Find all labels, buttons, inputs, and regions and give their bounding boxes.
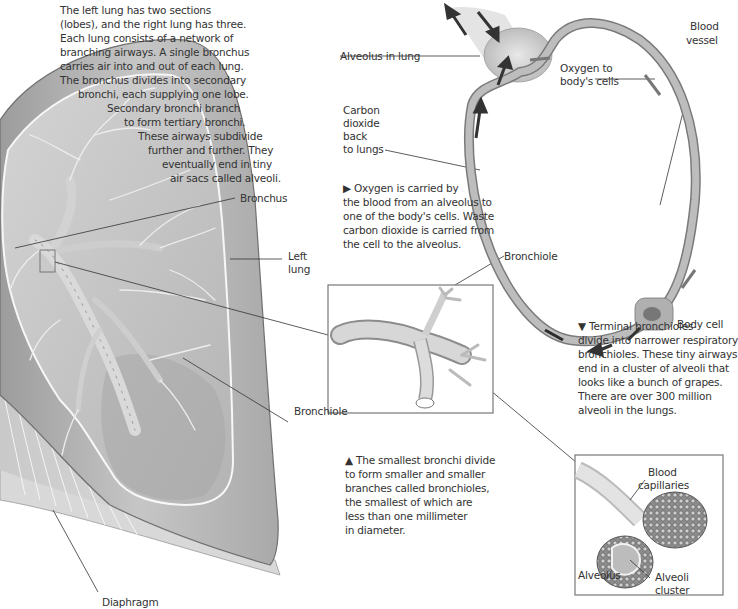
label-left-lung-2: lung: [288, 263, 310, 276]
label-bronchiole-lung: Bronchiole: [294, 405, 348, 418]
label-co2-4: to lungs: [343, 143, 384, 156]
caption-line: one of the body's cells. Waste: [343, 210, 494, 223]
intro-line: to form tertiary bronchi.: [124, 116, 245, 129]
label-co2-2: dioxide: [343, 117, 380, 130]
caption-line: to form smaller and smaller: [345, 468, 485, 481]
intro-line: branching airways. A single bronchus: [60, 46, 249, 59]
intro-line: air sacs called alveoli.: [170, 172, 281, 185]
intro-line: Each lung consists of a network of: [60, 32, 233, 45]
label-blood-capillaries-2: capillaries: [638, 479, 689, 492]
caption-line: alveoli in the lungs.: [578, 404, 677, 417]
label-left-lung-1: Left: [288, 250, 307, 263]
intro-line: The bronchus divides into secondary: [60, 74, 246, 87]
intro-line: eventually end in tiny: [162, 158, 272, 171]
intro-line: Secondary bronchi branch: [107, 102, 240, 115]
label-diaphragm: Diaphragm: [102, 596, 159, 609]
caption-line: ▲ The smallest bronchi divide: [345, 454, 495, 467]
label-oxygen-2: body's cells: [560, 75, 619, 88]
label-blood-capillaries-1: Blood: [648, 466, 677, 479]
label-bronchiole-inset: Bronchiole: [504, 250, 558, 263]
label-alveolus-in-lung: Alveolus in lung: [340, 50, 420, 63]
caption-line: ▶ Oxygen is carried by: [343, 182, 458, 195]
intro-line: (lobes), and the right lung has three.: [60, 18, 246, 31]
caption-line: the cell to the alveolus.: [343, 238, 461, 251]
caption-line: the blood from an alveolus to: [343, 196, 492, 209]
caption-line: the smallest of which are: [345, 496, 472, 509]
caption-line: looks like a bunch of grapes.: [578, 376, 723, 389]
caption-line: carbon dioxide is carried from: [343, 224, 494, 237]
label-co2-3: back: [343, 130, 367, 143]
caption-line: There are over 300 million: [578, 390, 712, 403]
label-blood-vessel-2: vessel: [686, 34, 718, 47]
label-bronchus: Bronchus: [240, 192, 287, 205]
intro-line: bronchi, each supplying one lobe.: [78, 88, 249, 101]
intro-line: carries air into and out of each lung.: [60, 60, 244, 73]
label-oxygen-1: Oxygen to: [560, 62, 613, 75]
caption-line: divide into narrower respiratory: [578, 334, 738, 347]
label-alveoli-cluster-2: cluster: [655, 584, 689, 597]
label-alveoli-cluster-1: Alveoli: [655, 571, 689, 584]
label-blood-vessel-1: Blood: [690, 20, 719, 33]
caption-line: end in a cluster of alveoli that: [578, 362, 729, 375]
caption-line: less than one millimeter: [345, 510, 467, 523]
caption-line: ▼ Terminal bronchioles: [578, 320, 693, 333]
intro-line: further and further. They: [148, 144, 273, 157]
label-alveolus: Alveolus: [578, 569, 621, 582]
label-co2-1: Carbon: [343, 104, 380, 117]
bronchiole-inset: [328, 285, 493, 413]
caption-line: in diameter.: [345, 524, 405, 537]
intro-line: These airways subdivide: [138, 130, 263, 143]
intro-line: The left lung has two sections: [60, 4, 211, 17]
caption-line: branches called bronchioles,: [345, 482, 489, 495]
caption-line: bronchioles. These tiny airways: [578, 348, 737, 361]
